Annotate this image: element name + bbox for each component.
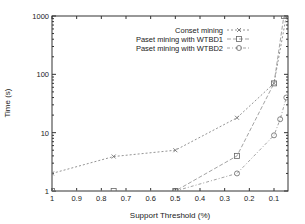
x-tick-label: 0.8 <box>96 194 106 203</box>
x-tick-label: 0.7 <box>121 194 131 203</box>
legend-swatch <box>227 37 251 42</box>
y-tick-label: 1000 <box>32 12 49 21</box>
chart: 10.90.80.70.60.50.40.30.20.11101001000 T… <box>0 0 305 224</box>
x-tick-label: 0.6 <box>145 194 155 203</box>
legend-swatch <box>227 28 251 32</box>
legend-item-conset: Conset mining <box>175 26 223 35</box>
x-tick-label: 0.9 <box>71 194 81 203</box>
x-axis-label: Support Threshold (%) <box>130 211 211 220</box>
legend-swatch <box>227 46 251 51</box>
x-tick-label: 0.1 <box>269 194 279 203</box>
legend: Conset mining Paset mining with WTBD1 Pa… <box>136 26 223 53</box>
x-tick-label: 1 <box>50 194 54 203</box>
x-tick-label: 0.2 <box>244 194 254 203</box>
legend-item-wtbd1: Paset mining with WTBD1 <box>136 35 223 44</box>
y-tick-label: 1 <box>45 187 49 196</box>
series-wtbd2 <box>173 95 289 193</box>
y-tick-label: 10 <box>41 129 49 138</box>
x-tick-label: 0.4 <box>195 194 205 203</box>
x-tick-label: 0.5 <box>170 194 180 203</box>
x-tick-label: 0.3 <box>219 194 229 203</box>
y-axis-label: Time (s) <box>3 88 12 117</box>
legend-item-wtbd2: Paset mining with WTBD2 <box>136 44 223 53</box>
y-tick-label: 100 <box>36 70 49 79</box>
